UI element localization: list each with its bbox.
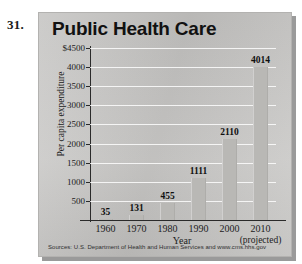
- y-axis-tick-label: 3500: [67, 81, 85, 91]
- bar-value-label: 4014: [251, 55, 270, 65]
- gridline: [90, 124, 276, 125]
- chart-figure-panel: Public Health Care Per capita expenditur…: [38, 12, 292, 257]
- source-note: Sources: U.S. Department of Health and H…: [48, 244, 266, 250]
- y-axis-tick: [86, 124, 90, 125]
- bar-value-label: 131: [129, 203, 143, 213]
- bar-value-label: 455: [160, 191, 174, 201]
- gridline: [90, 144, 276, 145]
- gridline: [90, 48, 276, 49]
- bar: [222, 139, 236, 220]
- bar-value-label: 2110: [220, 127, 238, 137]
- gridline: [90, 182, 276, 183]
- gridline: [90, 67, 276, 68]
- y-axis-tick: [86, 163, 90, 164]
- problem-number: 31.: [7, 17, 24, 33]
- bar: [129, 215, 143, 220]
- bar-value-label: 1111: [190, 166, 207, 176]
- x-axis-line: [80, 220, 286, 221]
- x-axis-tick-label: 1990: [189, 223, 209, 234]
- x-axis-tick-label: 1960: [96, 223, 116, 234]
- y-axis-tick-labels: $45004000350030002500200015001000500: [39, 48, 85, 220]
- bar: [253, 67, 267, 220]
- y-axis-tick-label: $4500: [63, 43, 86, 53]
- gridline: [90, 105, 276, 106]
- plot-area: 35131455111121104014: [90, 48, 276, 220]
- y-axis-tick: [86, 105, 90, 106]
- gridline: [90, 86, 276, 87]
- bar: [98, 219, 112, 220]
- gridline: [90, 163, 276, 164]
- y-axis-tick: [86, 86, 90, 87]
- y-axis-tick: [86, 182, 90, 183]
- y-axis-tick-label: 500: [72, 196, 86, 206]
- x-axis-tick-label: 1980: [158, 223, 178, 234]
- chart-title: Public Health Care: [52, 18, 216, 40]
- y-axis-tick-label: 1500: [67, 158, 85, 168]
- y-axis-tick-label: 4000: [67, 62, 85, 72]
- x-axis-tick-label: 1970: [127, 223, 147, 234]
- figure-page: 31. Public Health Care Per capita expend…: [0, 0, 302, 264]
- y-axis-tick: [86, 144, 90, 145]
- gridline: [90, 201, 276, 202]
- y-axis-tick: [86, 201, 90, 202]
- y-axis-tick-label: 2000: [67, 139, 85, 149]
- x-axis-tick-label: 2000: [220, 223, 240, 234]
- x-axis-tick-label: 2010: [251, 223, 271, 234]
- bar: [191, 178, 205, 220]
- y-axis-tick-label: 2500: [67, 119, 85, 129]
- y-axis-tick-label: 3000: [67, 100, 85, 110]
- y-axis-tick: [86, 67, 90, 68]
- y-axis-tick-label: 1000: [67, 177, 85, 187]
- bar-value-label: 35: [101, 207, 111, 217]
- bar: [160, 203, 174, 220]
- y-axis-tick: [86, 48, 90, 49]
